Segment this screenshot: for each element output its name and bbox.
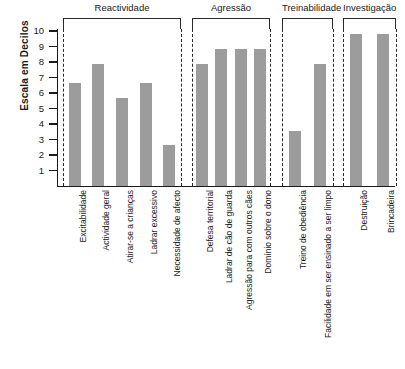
y-tick-label: 10 [22, 26, 44, 36]
chart-bar [235, 49, 247, 186]
y-tick-label: 1 [22, 166, 44, 176]
group-separator-line [343, 29, 344, 186]
chart-bar [314, 64, 326, 186]
y-tick-mark [49, 77, 57, 79]
chart-bar [92, 64, 104, 186]
x-axis-line [57, 186, 395, 187]
chart-bar [350, 34, 362, 186]
x-category-label: Necessidade de afecto [173, 190, 182, 276]
x-category-label: Defesa territorial [206, 190, 215, 252]
y-tick-mark [49, 139, 57, 141]
group-title: Treinabilidade [282, 2, 333, 13]
group-bracket [192, 18, 270, 29]
group-separator-line [181, 29, 182, 186]
x-category-label: Agressão para com outros cães [245, 190, 254, 310]
x-category-label: Actividade geral [102, 190, 111, 250]
chart-figure: Escala em Decilos 10987654321 Reactivida… [0, 0, 405, 369]
y-tick-mark [49, 154, 57, 156]
y-tick-mark [49, 170, 57, 172]
group-separator-line [63, 29, 64, 186]
group-bracket [282, 18, 333, 29]
group-bracket [343, 18, 396, 29]
y-tick-label: 3 [22, 135, 44, 145]
x-category-label: Facilidade em ser ensinado a ser limpo [324, 190, 333, 338]
y-tick-mark [49, 46, 57, 48]
y-tick-mark [49, 108, 57, 110]
y-tick-label: 9 [22, 42, 44, 52]
x-category-label: Atirar-se a crianças [126, 190, 135, 263]
y-tick-label: 4 [22, 119, 44, 129]
group-separator-line [270, 29, 271, 186]
y-tick-label: 7 [22, 73, 44, 83]
y-tick-label: 6 [22, 88, 44, 98]
x-category-label: Excitabilidade [79, 190, 88, 242]
chart-bar [215, 49, 227, 186]
y-tick-mark [49, 61, 57, 63]
group-title: Reactividade [63, 2, 181, 13]
x-category-label: Destruição [360, 190, 369, 231]
chart-bar [289, 131, 301, 186]
y-tick-mark [49, 123, 57, 125]
chart-bar [140, 83, 152, 186]
x-category-label: Ladrar de cão de guarda [225, 190, 234, 283]
group-separator-line [282, 29, 283, 186]
group-separator-line [192, 29, 193, 186]
chart-bar [116, 98, 128, 186]
chart-bar [69, 83, 81, 186]
chart-bar [377, 34, 389, 186]
y-tick-label: 5 [22, 104, 44, 114]
y-tick-label: 8 [22, 57, 44, 67]
group-title: Agressão [192, 2, 270, 13]
x-category-label: Ladrar excessivo [150, 190, 159, 254]
group-separator-line [396, 29, 397, 186]
group-title: Investigação [343, 2, 396, 13]
y-axis-line [57, 29, 58, 187]
y-tick-mark [49, 92, 57, 94]
chart-bar [254, 49, 266, 186]
chart-bar [163, 145, 175, 186]
chart-bar [196, 64, 208, 186]
group-separator-line [333, 29, 334, 186]
x-category-label: Treino de obediência [299, 190, 308, 269]
plot-area: 10987654321 [0, 0, 405, 369]
x-category-label: Brincadeira [387, 190, 396, 233]
y-tick-mark [49, 30, 57, 32]
y-tick-label: 2 [22, 150, 44, 160]
x-category-label: Domínio sobre o dono [264, 190, 273, 274]
group-bracket [63, 18, 181, 29]
